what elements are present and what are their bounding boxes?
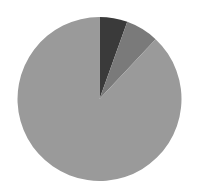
pie-chart-svg <box>0 0 199 196</box>
pie-chart <box>0 0 199 196</box>
